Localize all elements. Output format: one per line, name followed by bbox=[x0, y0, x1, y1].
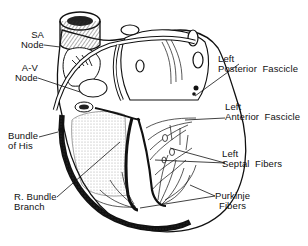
label-left-posterior-fascicle: Left Posterior Fascicle bbox=[218, 54, 298, 74]
label-purkinje-fibers-line2: Fibers bbox=[215, 201, 250, 211]
label-left-posterior-fascicle-line2: Posterior Fascicle bbox=[218, 64, 298, 74]
label-sa-node: SA Node bbox=[14, 30, 44, 50]
great-vessel bbox=[60, 12, 100, 50]
right-ventricle-interior bbox=[72, 111, 128, 196]
label-left-septal-fibers-line2: Septal Fibers bbox=[222, 159, 282, 169]
label-left-anterior-fascicle: Left Anterior Fascicle bbox=[225, 102, 300, 122]
left-fascicle-node bbox=[194, 86, 199, 91]
label-av-node: A-V Node bbox=[8, 63, 38, 83]
left-fascicle-node-2 bbox=[192, 92, 196, 96]
label-sa-node-line2: Node bbox=[14, 40, 44, 50]
left-bundle-branch bbox=[138, 118, 166, 206]
label-av-node-line2: Node bbox=[8, 73, 38, 83]
label-bundle-of-his-line2: of His bbox=[8, 141, 38, 151]
label-purkinje-fibers: Purkinje Fibers bbox=[215, 191, 250, 211]
bundle-of-his-node bbox=[59, 128, 64, 133]
label-left-septal-fibers: Left Septal Fibers bbox=[222, 149, 282, 169]
label-r-bundle-branch: R. Bundle Branch bbox=[14, 192, 57, 212]
label-bundle-of-his: Bundle of His bbox=[8, 131, 38, 151]
right-bundle-branch bbox=[126, 118, 138, 210]
label-left-anterior-fascicle-line2: Anterior Fascicle bbox=[225, 112, 300, 122]
label-r-bundle-branch-line2: Branch bbox=[14, 202, 57, 212]
